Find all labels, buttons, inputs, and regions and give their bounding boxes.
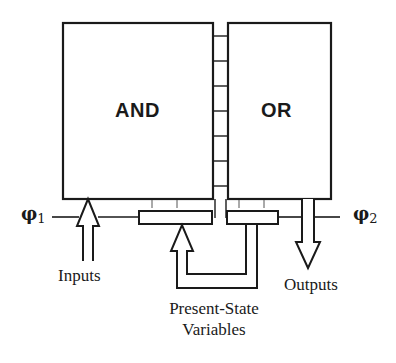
outputs-arrow-icon xyxy=(296,199,320,268)
pla-fsm-diagram: AND OR φ1 φ2 Inputs Outputs Present-Stat… xyxy=(0,0,396,363)
and-plane-label: AND xyxy=(115,99,160,122)
inputs-label: Inputs xyxy=(58,266,101,286)
phi2-label: φ2 xyxy=(353,203,378,226)
state-feedback-arrow-icon xyxy=(171,224,257,288)
register-tap-ticks xyxy=(152,200,264,208)
phi1-symbol: φ xyxy=(21,203,37,224)
input-register xyxy=(139,211,212,224)
present-state-label-line2: Variables xyxy=(146,320,282,340)
phi2-subscript: 2 xyxy=(369,211,377,226)
outputs-label: Outputs xyxy=(284,275,338,295)
state-register xyxy=(227,211,278,224)
phi2-symbol: φ xyxy=(353,203,369,224)
phi1-label: φ1 xyxy=(21,203,46,226)
present-state-label-line1: Present-State xyxy=(146,299,282,319)
phi1-subscript: 1 xyxy=(37,211,45,226)
inputs-arrow-icon xyxy=(77,199,99,261)
product-term-lines xyxy=(213,36,228,218)
or-plane-label: OR xyxy=(261,99,292,122)
